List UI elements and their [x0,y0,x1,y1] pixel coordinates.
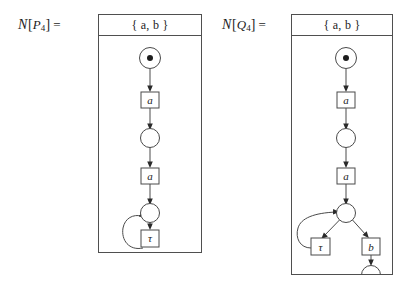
process-name-q: Q [237,17,247,32]
place-p0-initial-q4 [336,48,357,69]
close-bracket: ] [251,17,256,32]
equals-sign: = [256,17,266,32]
transition-label-t1-p4: a [147,170,153,182]
calligraphic-n-symbol: N [18,17,28,32]
transition-label-t1-q4: a [343,170,349,182]
arc-t0-to-p1 [147,106,153,130]
arc-p0-to-t0 [343,69,349,92]
equals-sign: = [50,17,60,32]
place-p2-q4 [337,204,356,223]
transition-t1-a-p4: a [141,168,159,184]
transition-t2-tau-q4: τ [311,238,330,255]
transition-t3-b-q4: b [362,238,380,255]
arc-t0-to-p1 [343,106,349,130]
arc-p2-to-t2 [321,220,339,239]
arc-p2-to-t2 [147,222,153,230]
transition-t0-a-q4: a [337,92,355,108]
net-canvas-p4: a a τ [99,36,201,252]
equation-label-p4: N[P4]= [18,17,61,33]
transition-t2-tau-p4: τ [141,230,159,247]
place-p1-q4 [337,129,356,148]
alphabet-label-p4: { a, b } [131,18,168,33]
arc-p2-to-t3 [353,220,369,238]
transition-label-t3-q4: b [368,241,374,253]
transition-label-t0-p4: a [147,94,153,106]
petri-net-figure: N[P4]= { a, b } [0,0,413,288]
calligraphic-n-symbol: N [222,17,232,32]
net-frame-q4: { a, b } [291,14,393,275]
arc-p1-to-t1 [147,147,153,168]
place-p3-q4 [362,266,381,275]
place-p1-p4 [141,129,160,148]
arc-t1-to-p2 [343,182,349,205]
transition-t1-a-q4: a [337,168,355,184]
net-frame-p4: { a, b } [98,14,202,253]
transition-label-t0-q4: a [343,94,349,106]
arc-p0-to-t0 [147,69,153,92]
alphabet-label-q4: { a, b } [323,18,360,33]
arc-t1-to-p2 [147,182,153,205]
arc-t3-to-p3 [368,255,374,266]
petri-net-graph-p4: a a τ [99,36,201,252]
transition-t0-a-p4: a [141,92,159,108]
place-p2-p4 [141,204,160,223]
arc-p1-to-t1 [343,147,349,168]
place-p0-initial-p4 [140,48,161,69]
process-name-p: P [33,17,41,32]
net-canvas-q4: a a τ [292,36,392,274]
equation-label-q4: N[Q4]= [222,17,266,33]
petri-net-graph-q4: a a τ [292,36,392,274]
alphabet-bar-p4: { a, b } [99,15,201,36]
alphabet-bar-q4: { a, b } [292,15,392,36]
